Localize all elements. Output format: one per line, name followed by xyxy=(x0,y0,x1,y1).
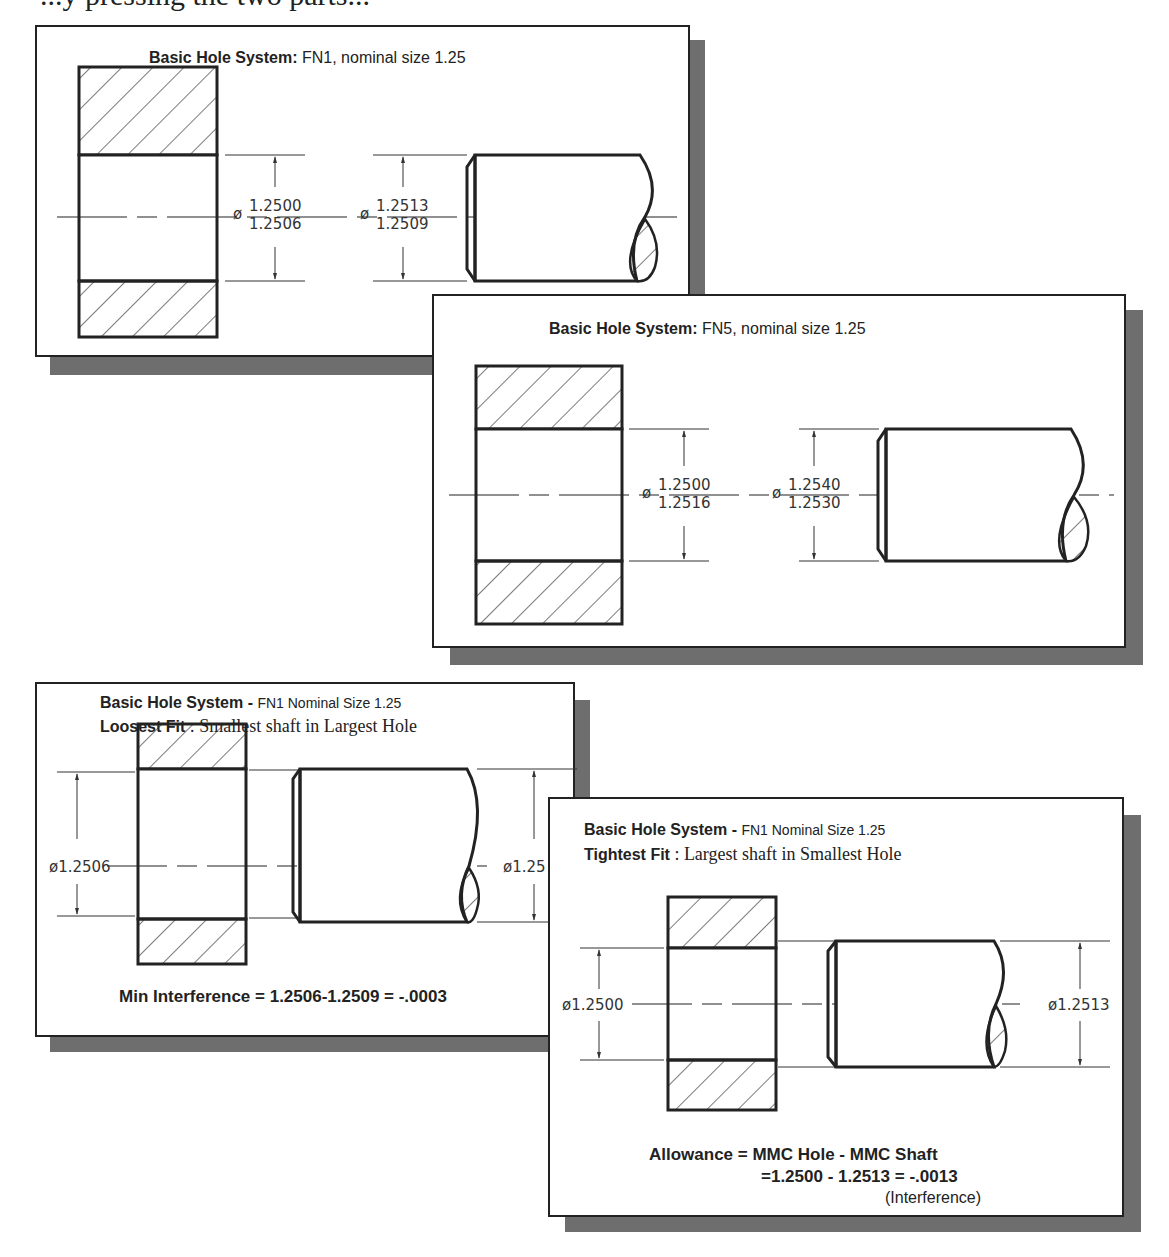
loosest-hole-dim: ø1.2506 xyxy=(49,858,111,876)
fn5-hole-dim-symbol: ø xyxy=(642,484,651,502)
fn1-shaft xyxy=(475,155,652,281)
fn1-shaft-dim-upper: 1.2513 xyxy=(376,197,429,215)
panel-tightest: Basic Hole System - FN1 Nominal Size 1.2… xyxy=(548,797,1124,1217)
fn1-hole-bore xyxy=(79,155,217,281)
fn5-hole-dim-lower: 1.2516 xyxy=(658,494,711,512)
tightest-hole-dim: ø1.2500 xyxy=(562,996,624,1014)
fn1-hole-bottom-section xyxy=(79,281,217,337)
fn5-hole-dim-upper: 1.2500 xyxy=(658,476,711,494)
tightest-shaft-dim: ø1.2513 xyxy=(1048,996,1110,1014)
fn1-hole-dim-lower: 1.2506 xyxy=(249,215,302,233)
loosest-drawing: ø1.2506 ø1.25 xyxy=(37,684,577,1039)
panel-fn5: Basic Hole System: FN5, nominal size 1.2… xyxy=(432,294,1126,648)
tightest-formula-line3: (Interference) xyxy=(885,1189,981,1207)
fn5-shaft-dim-upper: 1.2540 xyxy=(788,476,841,494)
panel-loosest: Basic Hole System - FN1 Nominal Size 1.2… xyxy=(35,682,575,1037)
fn5-shaft-dim-lower: 1.2530 xyxy=(788,494,841,512)
tightest-formula-line1: Allowance = MMC Hole - MMC Shaft xyxy=(649,1145,938,1165)
fn1-hole-dim-symbol: ø xyxy=(233,205,242,223)
fn1-hole-dim-upper: 1.2500 xyxy=(249,197,302,215)
tightest-formula-line2: =1.2500 - 1.2513 = -.0013 xyxy=(761,1167,958,1187)
fn1-shaft-dim-lower: 1.2509 xyxy=(376,215,429,233)
page-top-text: ...y pressing the two parts... xyxy=(40,0,370,12)
loosest-formula: Min Interference = 1.2506-1.2509 = -.000… xyxy=(119,987,447,1007)
loosest-shaft-dim: ø1.25 xyxy=(503,858,546,876)
fn1-shaft-dim-symbol: ø xyxy=(360,205,369,223)
fn5-shaft-dim-symbol: ø xyxy=(772,484,781,502)
fn5-drawing: ø 1.2500 1.2516 ø 1.2540 1.2530 xyxy=(434,296,1128,650)
fn1-hole-top-section xyxy=(79,67,217,155)
